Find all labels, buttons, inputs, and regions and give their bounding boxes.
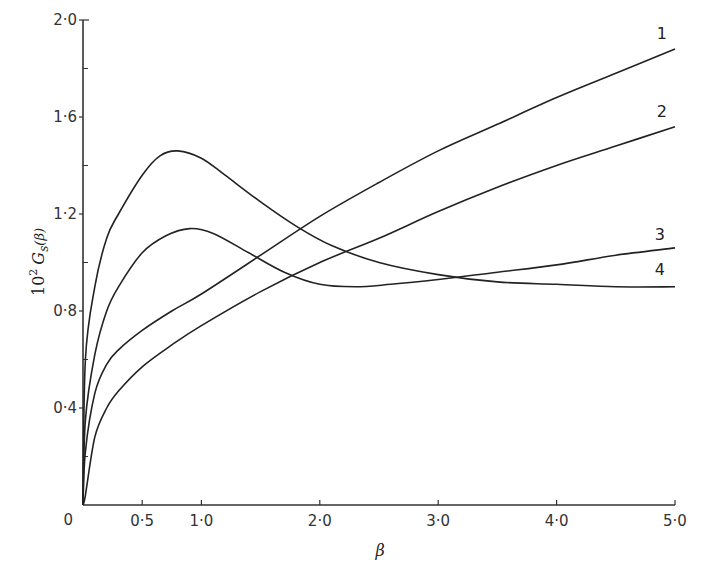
y-axis-title-sup: 2 — [27, 269, 40, 276]
chart-figure: 00·40·81·21·62·00·51·02·03·04·05·0 1234 … — [0, 0, 702, 571]
curve-label-2: 2 — [657, 102, 667, 121]
y-tick-label: 2·0 — [53, 11, 77, 29]
y-axis-title-arg: (β) — [32, 228, 47, 246]
y-tick-label: 0·4 — [53, 399, 77, 417]
curve-3 — [83, 228, 675, 505]
x-tick-label: 3·0 — [426, 512, 450, 530]
curve-labels: 1234 — [655, 24, 667, 279]
x-tick-label: 0·5 — [130, 512, 154, 530]
x-tick-label: 1·0 — [189, 512, 213, 530]
y-tick-label: 1·2 — [53, 205, 77, 223]
x-tick-label: 5·0 — [663, 512, 687, 530]
curve-label-1: 1 — [657, 24, 667, 43]
curve-1 — [83, 49, 675, 505]
y-axis-title: 102Gs(β) — [27, 228, 51, 296]
y-tick-label: 1·6 — [53, 108, 77, 126]
svg-text:102Gs(β): 102Gs(β) — [27, 228, 51, 296]
x-tick-label: 2·0 — [308, 512, 332, 530]
curve-label-4: 4 — [655, 260, 665, 279]
curve-4 — [83, 151, 675, 505]
y-axis-title-main: G — [29, 252, 48, 265]
axes: 00·40·81·21·62·00·51·02·03·04·05·0 — [53, 11, 687, 530]
x-axis-title: β — [374, 541, 384, 560]
curve-label-3: 3 — [655, 225, 665, 244]
y-tick-label: 0·8 — [53, 302, 77, 320]
curve-2 — [83, 127, 675, 505]
y-axis-title-prefix: 10 — [29, 276, 48, 296]
curves — [83, 49, 675, 505]
x-tick-label: 4·0 — [545, 512, 569, 530]
y-tick-label: 0 — [63, 511, 73, 529]
